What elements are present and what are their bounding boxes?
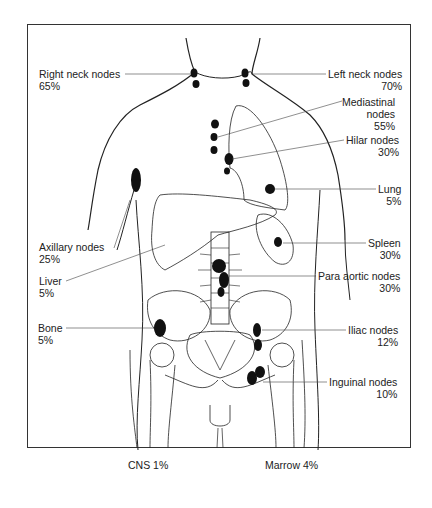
label-name: Mediastinal xyxy=(342,96,395,108)
label-mediastinal-nodes: Mediastinalnodes55% xyxy=(342,96,395,132)
label-pct: 12% xyxy=(348,336,398,348)
label-name: Right neck nodes xyxy=(39,68,120,80)
label-pct: 5% xyxy=(378,195,401,207)
label-name: Marrow 4% xyxy=(265,459,318,471)
label-inguinal-nodes: Inguinal nodes10% xyxy=(329,376,397,400)
label-pct: 30% xyxy=(346,146,399,158)
label-name: Inguinal nodes xyxy=(329,376,397,388)
label-name: Left neck nodes xyxy=(328,68,402,80)
label-right-neck-nodes: Right neck nodes65% xyxy=(39,68,120,92)
label-left-neck-nodes: Left neck nodes70% xyxy=(328,68,402,92)
label-spleen: Spleen30% xyxy=(368,237,401,261)
label-bone: Bone5% xyxy=(38,322,63,346)
label-pct: 5% xyxy=(39,287,62,299)
label-pct: 25% xyxy=(39,253,104,265)
label-pct: 55% xyxy=(342,120,395,132)
label-marrow: Marrow 4% xyxy=(265,459,318,471)
label-axillary-nodes: Axillary nodes25% xyxy=(39,241,104,265)
label-name: Lung xyxy=(378,183,401,195)
label-pct: 5% xyxy=(38,334,63,346)
label-pct: 70% xyxy=(328,80,402,92)
label-liver: Liver5% xyxy=(39,275,62,299)
label-name: Hilar nodes xyxy=(346,134,399,146)
label-lung: Lung5% xyxy=(378,183,401,207)
label-pct: 30% xyxy=(318,282,400,294)
label-name: Liver xyxy=(39,275,62,287)
label-name: Spleen xyxy=(368,237,401,249)
label-pct: 65% xyxy=(39,80,120,92)
label-pct: 10% xyxy=(329,388,397,400)
label-name: Axillary nodes xyxy=(39,241,104,253)
label-name: Bone xyxy=(38,322,63,334)
label-name-2: nodes xyxy=(342,108,395,120)
label-hilar-nodes: Hilar nodes30% xyxy=(346,134,399,158)
label-cns: CNS 1% xyxy=(128,459,168,471)
label-iliac-nodes: Iliac nodes12% xyxy=(348,324,398,348)
label-pct: 30% xyxy=(368,249,401,261)
label-name: Iliac nodes xyxy=(348,324,398,336)
label-para-aortic-nodes: Para aortic nodes30% xyxy=(318,270,400,294)
label-name: CNS 1% xyxy=(128,459,168,471)
label-name: Para aortic nodes xyxy=(318,270,400,282)
